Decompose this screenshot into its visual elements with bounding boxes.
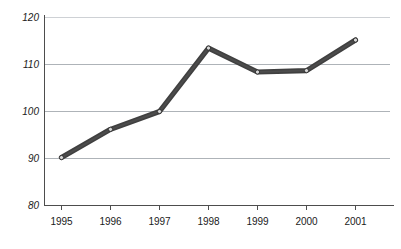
xtick-label-1999: 1999: [246, 216, 269, 227]
ytick-label-80: 80: [28, 200, 40, 211]
xtick-label-1997: 1997: [148, 216, 171, 227]
ytick-label-100: 100: [22, 106, 39, 117]
xtick-label-1995: 1995: [50, 216, 73, 227]
xtick-label-2000: 2000: [295, 216, 318, 227]
ytick-label-120: 120: [22, 12, 39, 23]
ytick-label-110: 110: [23, 59, 39, 70]
xtick-label-2001: 2001: [344, 216, 367, 227]
chart-background: [0, 0, 401, 249]
ytick-label-90: 90: [28, 153, 40, 164]
data-point-1996: [108, 127, 112, 131]
data-point-2000: [304, 69, 308, 73]
line-chart: 120 110 100 90 80 1995 1996 1997 1998 19…: [0, 0, 401, 249]
xtick-label-1996: 1996: [99, 216, 122, 227]
data-point-2001: [353, 38, 357, 42]
chart-canvas: 120 110 100 90 80 1995 1996 1997 1998 19…: [0, 0, 401, 249]
data-point-1995: [59, 155, 63, 159]
data-point-1999: [255, 70, 259, 74]
xtick-label-1998: 1998: [197, 216, 220, 227]
data-point-1998: [206, 46, 210, 50]
data-point-1997: [157, 109, 161, 113]
